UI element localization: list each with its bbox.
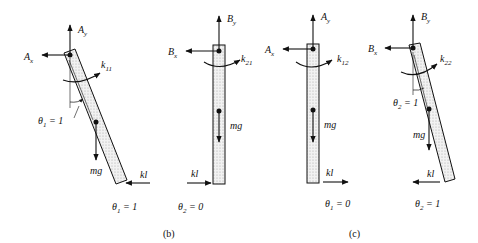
svg-text:Ax: Ax: [23, 51, 34, 65]
svg-text:kl: kl: [191, 168, 198, 179]
svg-text:Ay: Ay: [77, 24, 88, 38]
svg-text:θ2 = 1: θ2 = 1: [415, 198, 440, 212]
svg-text:mg: mg: [230, 120, 242, 131]
panel-b1: Ay Ax k11 θ1 = 1 mg kl θ1 = 1: [23, 24, 150, 215]
svg-text:k11: k11: [101, 59, 112, 73]
svg-text:By: By: [421, 11, 431, 25]
svg-text:θ1 = 1: θ1 = 1: [112, 201, 137, 215]
bar-b1: [64, 49, 127, 184]
svg-text:By: By: [227, 13, 237, 27]
svg-text:Bx: Bx: [368, 43, 378, 57]
svg-text:mg: mg: [413, 129, 425, 140]
panel-c2: By Bx k22 θ2 = 1 mg kl θ2 = 1: [368, 11, 455, 212]
svg-text:kl: kl: [427, 168, 434, 179]
svg-text:k21: k21: [241, 53, 252, 67]
svg-text:θ2 = 1: θ2 = 1: [393, 97, 418, 111]
caption-c: (c): [349, 228, 360, 240]
svg-text:Ay: Ay: [320, 11, 331, 25]
svg-text:θ1 = 0: θ1 = 0: [325, 198, 350, 212]
svg-text:mg: mg: [324, 119, 336, 130]
svg-text:kl: kl: [140, 169, 147, 180]
caption-b: (b): [163, 228, 175, 240]
svg-text:Ax: Ax: [264, 44, 275, 58]
svg-text:k12: k12: [337, 53, 349, 67]
panel-c1: Ay Ax k12 mg kl θ1 = 0: [264, 11, 350, 212]
svg-text:kl: kl: [326, 167, 333, 178]
svg-text:θ2 = 0: θ2 = 0: [178, 201, 203, 215]
svg-text:Bx: Bx: [168, 46, 178, 60]
panel-b2: By Bx k21 mg kl θ2 = 0: [168, 13, 252, 215]
free-body-diagrams: Ay Ax k11 θ1 = 1 mg kl θ1 = 1 By Bx k21 …: [0, 0, 478, 243]
svg-text:k22: k22: [440, 53, 452, 67]
svg-text:mg: mg: [90, 165, 102, 176]
svg-text:θ1 = 1: θ1 = 1: [38, 115, 63, 129]
